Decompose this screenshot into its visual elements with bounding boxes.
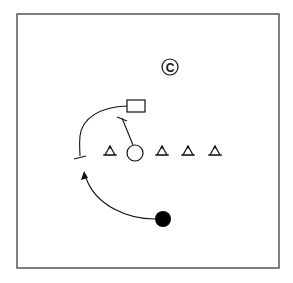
target-box [127,100,145,112]
field-frame [17,14,279,268]
coach-letter: C [166,61,175,75]
attacker-filled-circle-icon [155,211,171,227]
drill-diagram: C [0,0,293,283]
defender-open-circle-icon [127,145,143,161]
